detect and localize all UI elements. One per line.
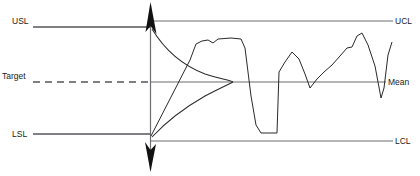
lsl-label: LSL [12,129,27,139]
measurement-data-line [151,33,392,136]
spc-diagram-root: USL Target LSL UCL Mean LCL [0,0,420,176]
distribution-curve-upper [152,29,233,82]
spc-chart-canvas: USL Target LSL UCL Mean LCL [0,0,420,176]
ucl-label: UCL [395,16,412,26]
lcl-label: LCL [395,136,411,146]
mean-label: Mean [388,77,410,87]
usl-label: USL [12,16,29,26]
target-label: Target [2,71,26,81]
